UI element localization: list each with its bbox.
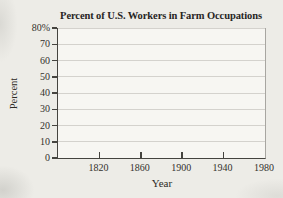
y-tick-label: 0 (24, 152, 50, 164)
y-tick (52, 92, 57, 94)
y-axis-title: Percent (7, 64, 20, 124)
y-tick (52, 157, 57, 159)
x-tick (99, 152, 101, 158)
scanned-page: Percent of U.S. Workers in Farm Occupati… (0, 0, 283, 198)
y-tick-label: 10 (24, 136, 50, 148)
y-tick (52, 125, 57, 127)
x-tick-label: 1900 (165, 162, 197, 174)
x-tick (181, 152, 183, 158)
y-tick (52, 44, 57, 46)
y-tick-label: 30 (24, 103, 50, 115)
y-tick (52, 109, 57, 111)
y-tick-label: 70 (24, 38, 50, 50)
x-tick (223, 152, 225, 158)
y-tick (52, 141, 57, 143)
y-tick-label: 60 (24, 55, 50, 67)
gridline (58, 125, 265, 126)
gridline (58, 60, 265, 61)
y-tick (52, 60, 57, 62)
x-tick-label: 1860 (124, 162, 156, 174)
y-tick (52, 76, 57, 78)
plot-area (57, 28, 266, 159)
x-tick (140, 152, 142, 158)
x-tick-label: 1940 (207, 162, 239, 174)
gridline (58, 109, 265, 110)
gridline (58, 44, 265, 45)
y-tick-label: 20 (24, 120, 50, 132)
gridline (58, 28, 265, 29)
y-tick (52, 27, 57, 29)
x-tick-label: 1980 (248, 162, 280, 174)
gridline (58, 76, 265, 77)
y-tick-label: 40 (24, 87, 50, 99)
y-tick-label: 80% (24, 22, 50, 34)
chart-title: Percent of U.S. Workers in Farm Occupati… (39, 10, 283, 21)
x-axis-title: Year (40, 177, 283, 189)
gridline (58, 141, 265, 142)
x-tick-label: 1820 (82, 162, 114, 174)
y-tick-label: 50 (24, 71, 50, 83)
gridline (58, 93, 265, 94)
